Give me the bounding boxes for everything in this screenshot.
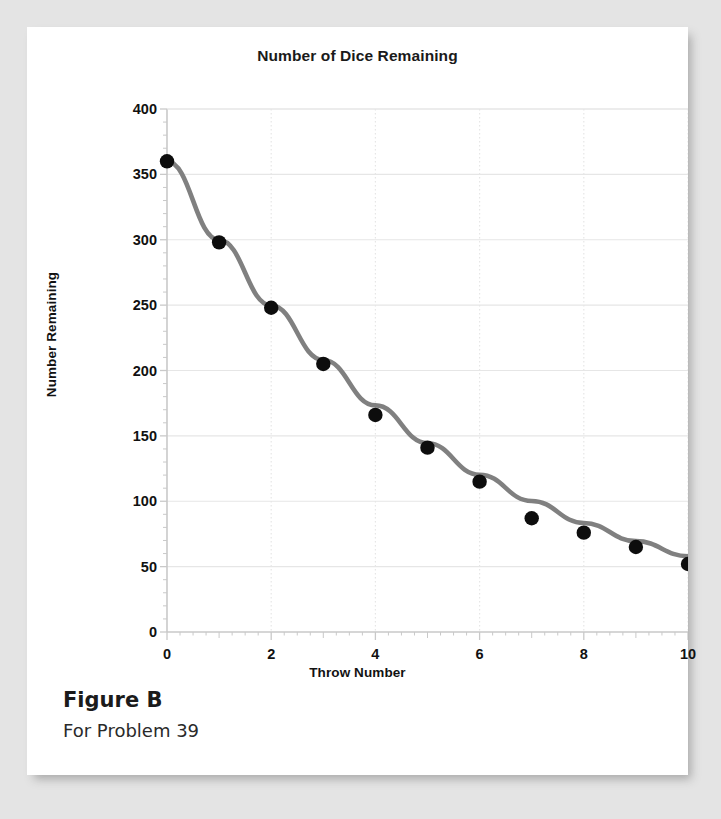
y-axis-title: Number Remaining bbox=[44, 225, 59, 445]
figure-card: Number of Dice Remaining 050100150200250… bbox=[27, 27, 688, 775]
plot-svg bbox=[27, 27, 688, 687]
x-tick-label: 6 bbox=[476, 646, 484, 662]
data-point bbox=[264, 301, 278, 315]
axis-ticks bbox=[160, 109, 688, 640]
data-point bbox=[629, 540, 643, 554]
y-tick-label: 250 bbox=[93, 297, 157, 313]
data-point bbox=[420, 440, 434, 454]
data-point bbox=[472, 474, 486, 488]
figure-caption-title: Figure B bbox=[63, 687, 463, 713]
y-tick-label: 100 bbox=[93, 493, 157, 509]
x-axis-title: Throw Number bbox=[27, 665, 688, 680]
x-tick-label: 4 bbox=[371, 646, 379, 662]
y-tick-label: 150 bbox=[93, 428, 157, 444]
figure-page: Number of Dice Remaining 050100150200250… bbox=[0, 0, 721, 819]
gridlines bbox=[167, 109, 688, 632]
data-point bbox=[681, 557, 688, 571]
y-tick-label: 50 bbox=[93, 559, 157, 575]
chart-area: Number of Dice Remaining 050100150200250… bbox=[27, 27, 688, 687]
y-tick-label: 400 bbox=[93, 101, 157, 117]
y-tick-label: 0 bbox=[93, 624, 157, 640]
y-tick-label: 300 bbox=[93, 232, 157, 248]
data-point bbox=[316, 357, 330, 371]
data-points bbox=[160, 154, 688, 571]
fit-curve bbox=[167, 161, 688, 556]
x-tick-label: 8 bbox=[580, 646, 588, 662]
y-tick-label: 350 bbox=[93, 166, 157, 182]
data-point bbox=[368, 408, 382, 422]
data-point bbox=[525, 511, 539, 525]
x-tick-label: 10 bbox=[680, 646, 696, 662]
x-tick-label: 0 bbox=[163, 646, 171, 662]
data-point bbox=[160, 154, 174, 168]
data-point bbox=[212, 235, 226, 249]
figure-caption-subtitle: For Problem 39 bbox=[63, 719, 463, 743]
figure-caption: Figure B For Problem 39 bbox=[63, 687, 463, 744]
x-tick-label: 2 bbox=[267, 646, 275, 662]
y-tick-label: 200 bbox=[93, 363, 157, 379]
data-point bbox=[577, 525, 591, 539]
